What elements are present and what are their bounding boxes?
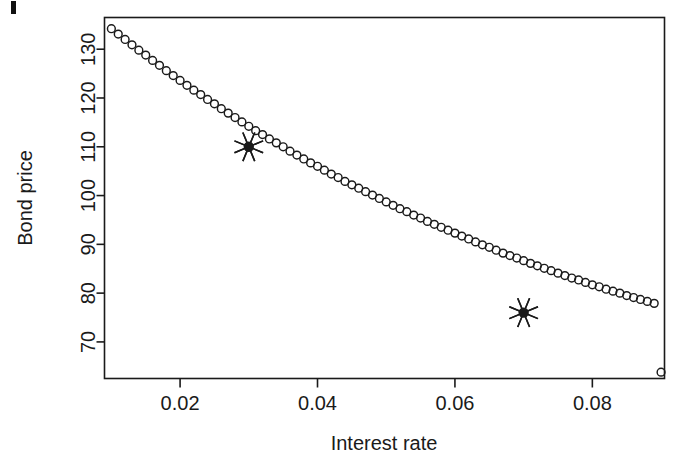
y-tick-label: 120 <box>78 81 100 114</box>
page-edge-artifact <box>11 1 16 14</box>
x-tick-label: 0.08 <box>573 392 612 414</box>
x-tick-label: 0.06 <box>435 392 474 414</box>
y-tick-label: 90 <box>78 233 100 255</box>
y-tick-label: 130 <box>78 33 100 66</box>
x-tick-label: 0.04 <box>298 392 337 414</box>
x-axis-title: Interest rate <box>331 432 438 454</box>
x-tick-label: 0.02 <box>161 392 200 414</box>
star-core <box>244 142 254 152</box>
y-tick-label: 100 <box>78 179 100 212</box>
star-core <box>518 307 528 317</box>
y-axis-title: Bond price <box>14 150 36 246</box>
y-tick-label: 70 <box>78 331 100 353</box>
bond-price-chart-figure: 708090100110120130 0.020.040.060.08 Bond… <box>0 0 690 463</box>
plot-canvas: 708090100110120130 0.020.040.060.08 Bond… <box>0 0 690 463</box>
y-tick-label: 80 <box>78 282 100 304</box>
y-tick-label: 110 <box>78 131 100 163</box>
